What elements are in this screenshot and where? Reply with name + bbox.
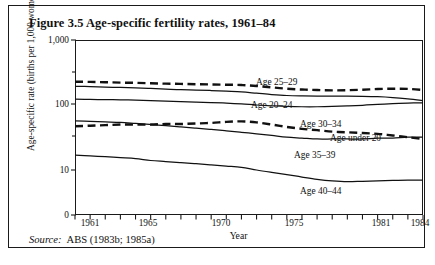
series-line [75,155,423,182]
series-line [75,86,423,100]
series-label: Age 20–24 [251,100,292,110]
series-label: Age under 20 [330,133,381,143]
x-tick-label: 1965 [139,218,158,228]
plot-lines [75,40,423,215]
x-tick-label: 1984 [411,218,430,228]
series-line [75,82,423,91]
series-label: Age 40–44 [300,186,341,196]
x-tick-label: 1970 [212,218,231,228]
series-label: Age 30–34 [300,119,341,129]
series-label: Age 25–29 [256,77,297,87]
plot-area [75,40,423,215]
x-tick-label: 1961 [81,218,100,228]
y-tick-label: 1,000 [48,35,69,45]
y-axis-tick-labels: 1,000100100 [9,40,69,215]
source-text: ABS (1983b; 1985a) [67,234,155,245]
figure-title: Figure 3.5 Age-specific fertility rates,… [29,16,275,31]
x-tick-label: 1975 [285,218,304,228]
y-tick-label: 10 [60,165,69,175]
series-line [75,99,423,107]
figure-container: Figure 3.5 Age-specific fertility rates,… [8,5,425,248]
source-label: Source: [29,234,62,245]
y-axis-title: Age-specific rate (births per 1,000 wome… [25,0,37,155]
series-label: Age 35–39 [294,150,335,160]
x-tick-label: 1981 [372,218,391,228]
y-tick-label: 100 [55,99,69,109]
source-line: Source:ABS (1983b; 1985a) [29,234,155,245]
